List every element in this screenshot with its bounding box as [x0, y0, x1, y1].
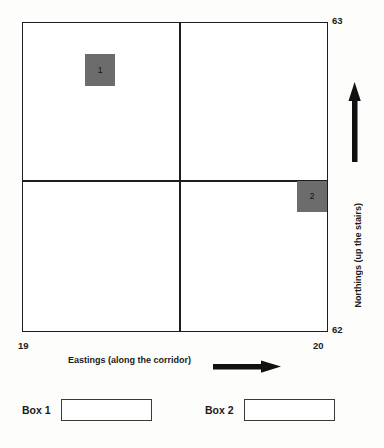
answer-group-box-1: Box 1 — [22, 399, 152, 421]
northings-axis-group: Northings (up the stairs) — [336, 80, 380, 335]
coordinate-grid: 1 2 — [22, 22, 328, 332]
answer-row: Box 1 Box 2 — [0, 399, 384, 431]
grid-vertical-midline — [179, 23, 181, 331]
up-arrow-icon — [348, 82, 361, 162]
grid-marker-2-label: 2 — [310, 192, 315, 201]
northings-axis-title-text: Northings (up the stairs) — [354, 203, 363, 308]
grid-marker-2[interactable]: 2 — [297, 181, 327, 212]
grid-marker-1[interactable]: 1 — [85, 54, 115, 86]
eastings-max-tick-label: 20 — [313, 341, 324, 351]
grid-horizontal-midline — [23, 180, 327, 182]
answer-group-box-2: Box 2 — [205, 399, 335, 421]
northings-max-tick-label: 63 — [332, 16, 343, 26]
eastings-axis-title: Eastings (along the corridor) — [68, 356, 191, 365]
box-2-input[interactable] — [244, 399, 335, 421]
grid-marker-1-label: 1 — [98, 66, 103, 75]
right-arrow-icon — [213, 360, 281, 373]
box-1-label: Box 1 — [22, 405, 51, 416]
diagram-canvas: 1 2 63 62 19 20 Eastings (along the corr… — [0, 0, 384, 448]
eastings-min-tick-label: 19 — [18, 341, 29, 351]
northings-axis-title: Northings (up the stairs) — [336, 180, 380, 330]
box-1-input[interactable] — [61, 399, 152, 421]
box-2-label: Box 2 — [205, 405, 234, 416]
